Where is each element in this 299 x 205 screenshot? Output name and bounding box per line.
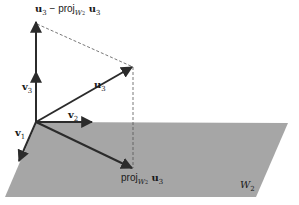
label-v2: v2 [68, 110, 78, 123]
proj-text: proj [121, 172, 138, 183]
label-v3: v3 [22, 82, 32, 95]
label-u3: u3 [94, 80, 106, 93]
label-w2: W2 [240, 180, 255, 193]
v3-sub: 3 [28, 87, 32, 95]
label-w: W [75, 9, 82, 17]
label-proj-u3: projW2 u3 [121, 173, 163, 186]
dashed-line-top [37, 24, 133, 67]
label-proj: proj [58, 3, 75, 14]
w2-sub: 2 [250, 185, 254, 193]
label-v1: v1 [15, 128, 25, 141]
label-minus: − [47, 3, 58, 14]
u3-sub: 3 [101, 85, 105, 93]
label-u3-minus-proj: u3 − projW2 u3 [35, 4, 100, 17]
proj-u-sub: 3 [159, 178, 163, 186]
proj-w: W [138, 178, 145, 186]
label-u2: u [85, 3, 96, 14]
proj-u: u [148, 172, 159, 183]
u3-arrow [36, 67, 132, 122]
v2-sub: 2 [74, 115, 78, 123]
label-u2-sub: 3 [96, 9, 100, 17]
v1-sub: 1 [21, 133, 25, 141]
w2-letter: W [240, 179, 250, 190]
